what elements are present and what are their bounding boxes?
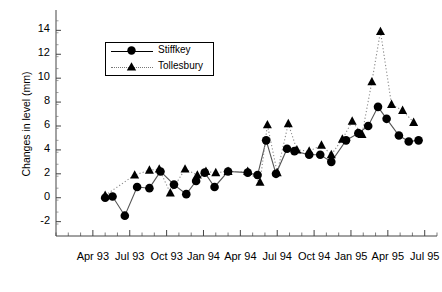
- data-point-stiffkey: [210, 183, 219, 192]
- data-point-stiffkey: [327, 158, 336, 167]
- y-tick-label: 8: [24, 94, 50, 106]
- data-point-stiffkey: [170, 180, 179, 189]
- y-tick-label: 10: [24, 70, 50, 82]
- data-point-tollesbury: [130, 170, 139, 178]
- data-point-stiffkey: [283, 144, 292, 153]
- legend-item-tollesbury: Tollesbury: [106, 59, 213, 75]
- data-point-tollesbury: [193, 170, 202, 178]
- triangle-marker-icon: [126, 61, 137, 72]
- data-point-stiffkey: [316, 150, 325, 159]
- data-point-tollesbury: [284, 119, 293, 127]
- series-line-stiffkey: [105, 107, 418, 216]
- data-point-tollesbury: [398, 106, 407, 114]
- chart-plot-area: [0, 0, 442, 292]
- legend-label-stiffkey: Stiffkey: [158, 44, 191, 55]
- data-point-tollesbury: [305, 146, 314, 154]
- data-point-stiffkey: [253, 171, 262, 180]
- chart-legend: Stiffkey Tollesbury: [105, 42, 214, 76]
- data-point-stiffkey: [145, 184, 154, 193]
- data-point-stiffkey: [182, 190, 191, 199]
- data-point-tollesbury: [317, 140, 326, 148]
- data-point-stiffkey: [108, 192, 117, 201]
- data-point-tollesbury: [387, 100, 396, 108]
- y-tick-label: 2: [24, 166, 50, 178]
- data-point-tollesbury: [348, 116, 357, 124]
- legend-item-stiffkey: Stiffkey: [106, 43, 213, 59]
- data-point-tollesbury: [181, 164, 190, 172]
- data-point-tollesbury: [376, 27, 385, 35]
- y-tick-label: -2: [24, 214, 50, 226]
- data-point-stiffkey: [395, 131, 404, 140]
- data-point-tollesbury: [409, 118, 418, 126]
- y-tick-label: 6: [24, 118, 50, 130]
- data-point-stiffkey: [382, 115, 391, 124]
- y-tick-label: 12: [24, 46, 50, 58]
- data-point-tollesbury: [367, 77, 376, 85]
- data-point-stiffkey: [121, 211, 130, 220]
- data-point-tollesbury: [101, 190, 110, 198]
- y-tick-label: 4: [24, 142, 50, 154]
- legend-label-tollesbury: Tollesbury: [158, 60, 203, 71]
- chart-container: Changes in level (mm) -202468101214 Apr …: [0, 0, 442, 292]
- y-tick-label: 0: [24, 190, 50, 202]
- data-point-stiffkey: [374, 103, 383, 112]
- y-tick-label: 14: [24, 22, 50, 34]
- circle-marker-icon: [126, 45, 137, 56]
- data-point-stiffkey: [262, 136, 271, 145]
- data-point-tollesbury: [166, 188, 175, 196]
- data-point-stiffkey: [133, 183, 142, 192]
- data-point-stiffkey: [404, 137, 413, 146]
- data-point-stiffkey: [414, 136, 423, 145]
- data-point-stiffkey: [364, 122, 373, 131]
- data-point-tollesbury: [263, 120, 272, 128]
- x-tick-label: Jul 95: [399, 250, 442, 262]
- data-point-tollesbury: [211, 168, 220, 176]
